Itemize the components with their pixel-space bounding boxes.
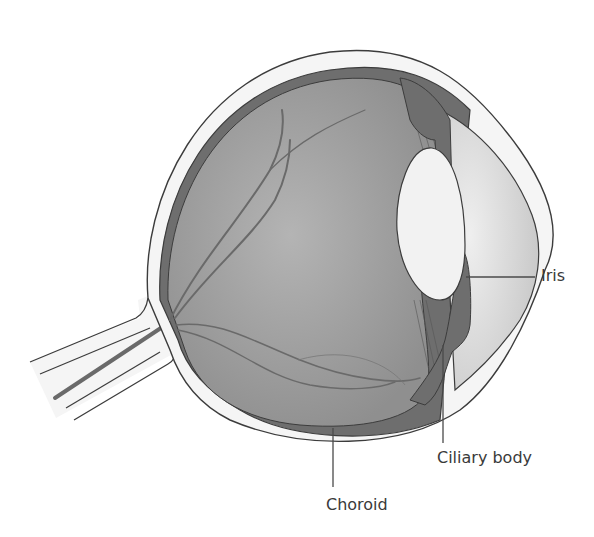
choroid-label: Choroid — [326, 495, 388, 514]
iris-label: Iris — [541, 266, 565, 285]
eye-diagram: Iris Ciliary body Choroid — [0, 0, 594, 537]
ciliary-body-label: Ciliary body — [437, 448, 532, 467]
